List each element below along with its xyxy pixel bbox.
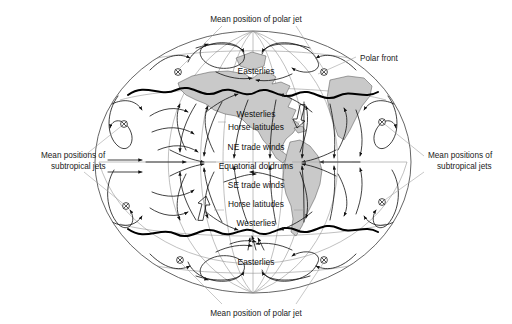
leader-left-subtrop-lower xyxy=(84,172,126,206)
leader-top-polar-jet-left xyxy=(178,26,222,70)
label-mean-subtropical-jets-left-line2: subtropical jets xyxy=(51,162,106,171)
label-mean-subtropical-jets-left-line1: Mean positions of xyxy=(41,151,106,160)
leader-polar-front xyxy=(318,57,356,74)
figure-canvas: Mean position of polar jet Polar front M… xyxy=(0,0,512,324)
label-belt-s-easterlies: Easterlies xyxy=(238,257,275,267)
label-belt-s-westerlies: Westerlies xyxy=(237,218,276,228)
leader-right-subtrop-lower xyxy=(382,172,424,202)
leader-right-subtrop-upper xyxy=(382,122,424,156)
label-belt-n-westerlies: Westerlies xyxy=(237,109,276,119)
label-belt-n-easterlies: Easterlies xyxy=(238,66,275,76)
diagram-labels: Mean position of polar jet Polar front M… xyxy=(41,15,493,318)
label-belt-ne-trade-winds: NE trade winds xyxy=(228,142,285,152)
label-belt-se-trade-winds: SE trade winds xyxy=(228,180,284,190)
south-hadley-ferrel-flow xyxy=(150,166,362,224)
label-mean-subtropical-jets-right-line2: subtropical jets xyxy=(437,162,492,171)
leader-bottom-polar-jet-right xyxy=(296,262,324,304)
label-belt-n-horse-latitudes: Horse latitudes xyxy=(228,122,284,132)
label-mean-polar-jet-bottom: Mean position of polar jet xyxy=(210,309,302,318)
label-belt-equatorial-doldrums: Equatorial doldrums xyxy=(219,161,293,171)
leader-top-polar-jet-right xyxy=(296,26,324,70)
label-mean-polar-jet-top: Mean position of polar jet xyxy=(210,15,302,24)
label-mean-subtropical-jets-right-line1: Mean positions of xyxy=(428,151,493,160)
label-belt-s-horse-latitudes: Horse latitudes xyxy=(228,199,284,209)
circulation-diagram: Mean position of polar jet Polar front M… xyxy=(0,0,512,324)
label-polar-front: Polar front xyxy=(360,54,398,63)
